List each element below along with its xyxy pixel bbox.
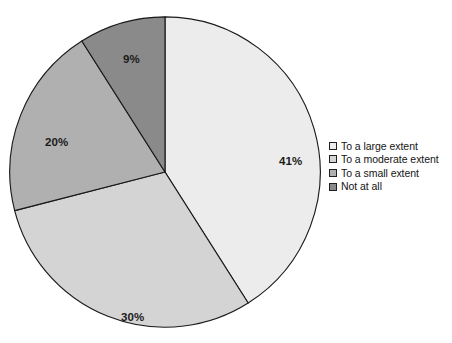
legend-swatch-icon-to-a-moderate-extent xyxy=(329,155,337,163)
legend-swatch-icon-not-at-all xyxy=(329,183,337,191)
legend-item-to-a-small-extent: To a small extent xyxy=(329,166,447,180)
legend-label: Not at all xyxy=(341,181,382,192)
legend-label: To a large extent xyxy=(341,141,418,152)
legend-label: To a small extent xyxy=(341,168,419,179)
pie-chart-figure: 41% 30% 20% 9% To a large extent To a mo… xyxy=(0,0,452,343)
slice-data-label-to-a-small-extent: 20% xyxy=(45,137,68,149)
legend-label: To a moderate extent xyxy=(341,154,439,165)
legend-swatch-icon-to-a-small-extent xyxy=(329,169,337,177)
legend-item-to-a-moderate-extent: To a moderate extent xyxy=(329,153,447,167)
chart-legend: To a large extent To a moderate extent T… xyxy=(329,139,447,193)
legend-item-not-at-all: Not at all xyxy=(329,180,447,194)
pie-chart-plot-area: 41% 30% 20% 9% xyxy=(9,16,321,328)
slice-data-label-to-a-moderate-extent: 30% xyxy=(121,312,144,324)
legend-swatch-icon-to-a-large-extent xyxy=(329,142,337,150)
legend-item-to-a-large-extent: To a large extent xyxy=(329,139,447,153)
slice-data-label-to-a-large-extent: 41% xyxy=(279,156,302,168)
pie-slice-group xyxy=(10,17,320,327)
slice-data-label-not-at-all: 9% xyxy=(123,54,140,66)
pie-chart-svg xyxy=(9,16,321,328)
